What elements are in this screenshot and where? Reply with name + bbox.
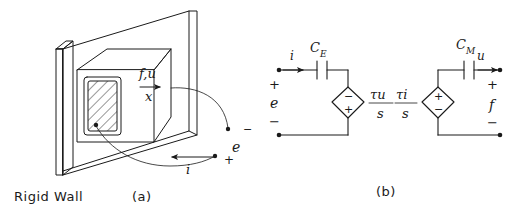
capacitor-label: C <box>456 37 466 52</box>
source-numerator: τu <box>370 87 386 102</box>
current-label: i <box>186 162 190 177</box>
source-top-sign: − <box>344 90 353 103</box>
port-label: e <box>270 95 278 111</box>
current-label: i <box>290 49 294 63</box>
port-minus: − <box>269 114 280 129</box>
panel-a-caption: (a) <box>132 189 152 204</box>
terminal-node-icon <box>277 133 282 138</box>
source-numerator: τi <box>396 87 407 102</box>
port-plus: + <box>269 77 280 92</box>
wall-slab-icon <box>56 41 73 175</box>
terminal-node-icon <box>498 133 503 138</box>
terminal-node-icon <box>277 68 282 73</box>
source-denominator: s <box>377 106 384 121</box>
capacitor-icon <box>317 61 327 79</box>
wall-panel-icon <box>63 11 197 175</box>
capacitor-subscript: E <box>319 49 327 59</box>
mechanical-port-circuit: C M u + − τi s + f − <box>395 37 502 137</box>
dependent-source-diamond-icon: + − <box>422 87 454 118</box>
panel-b: C E i − + τu s + e − <box>269 37 502 199</box>
hatched-rectangle-icon <box>84 77 121 135</box>
source-bottom-sign: − <box>434 103 443 116</box>
panel-a: f,u x e − i + Rigid Wall (a) <box>14 11 252 204</box>
capacitor-subscript: M <box>465 46 476 56</box>
current-terminal-plus: + <box>224 153 234 167</box>
wall-label: Rigid Wall <box>14 189 83 204</box>
port-label: f <box>488 97 497 113</box>
source-value-fraction: τu s <box>369 87 393 121</box>
port-plus: + <box>487 77 498 92</box>
dependent-source-diamond-icon: − + <box>332 87 364 118</box>
leader-curve-icon <box>171 88 228 128</box>
capacitor-icon <box>464 61 474 79</box>
figure-container: f,u x e − i + Rigid Wall (a) <box>0 0 515 214</box>
source-denominator: s <box>402 106 409 121</box>
port-minus: − <box>487 115 498 130</box>
terminal-node-icon <box>498 68 503 73</box>
displacement-label: x <box>145 89 153 104</box>
source-bottom-sign: + <box>344 103 353 116</box>
force-velocity-label: f,u <box>138 66 156 81</box>
source-top-sign: + <box>434 90 443 103</box>
electrical-port-circuit: C E i − + τu s + e − <box>269 40 393 137</box>
velocity-label: u <box>477 49 485 63</box>
capacitor-label: C <box>310 40 320 55</box>
source-value-fraction: τi s <box>395 87 417 121</box>
i-terminal-dot <box>213 154 217 158</box>
e-terminal-dot <box>226 127 230 131</box>
panel-b-caption: (b) <box>376 184 396 199</box>
voltage-superscript-minus: − <box>243 123 252 136</box>
